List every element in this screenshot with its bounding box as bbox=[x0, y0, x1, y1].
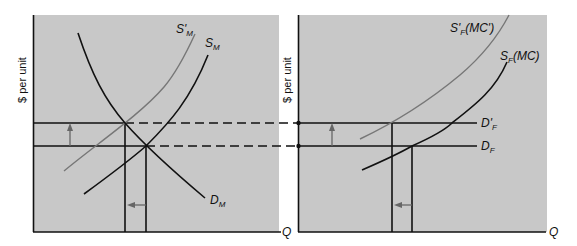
right-x-axis-label: Q bbox=[549, 225, 558, 239]
right-supply-label: SF(MC) bbox=[500, 49, 540, 65]
left-x-axis-label: Q bbox=[282, 225, 291, 239]
market-firm-diagram: S'M SM DM Q $ per unit S'F(MC') SF(MC) D… bbox=[0, 0, 577, 246]
right-supply-shifted-label: S'F(MC') bbox=[450, 21, 494, 37]
right-y-axis-label: $ per unit bbox=[281, 57, 293, 103]
left-y-axis-label: $ per unit bbox=[16, 57, 28, 103]
